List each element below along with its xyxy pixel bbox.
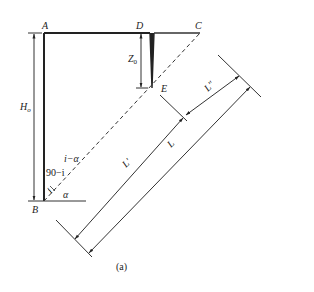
failure-plane-bc [44,33,200,201]
point-e-label: E [160,83,167,94]
l-dimension-line [89,87,250,253]
l-double-prime-label: L″ [201,78,217,94]
retaining-wall-diagram: Ho Z0 A D C E B L″ L′ L i−α 90−i i α (a) [0,0,314,292]
tension-crack [150,33,154,88]
extension-top [218,55,261,97]
point-a-label: A [41,20,49,31]
point-d-label: D [135,20,144,31]
angle-90-minus-i-label: 90−i [46,167,65,178]
angle-alpha-label: α [63,189,69,200]
z0-label: Z0 [128,53,138,66]
l-label: L [164,137,177,150]
l-double-prime-dimension-line [186,76,239,115]
l-prime-dimension-line [75,118,183,239]
angle-i-minus-alpha-label: i−α [64,153,80,164]
point-b-label: B [32,204,38,215]
figure-caption: (a) [116,261,127,273]
l-prime-label: L′ [119,156,134,171]
perpendicular-e [160,95,187,121]
h0-label: Ho [19,101,31,114]
point-c-label: C [195,20,202,31]
